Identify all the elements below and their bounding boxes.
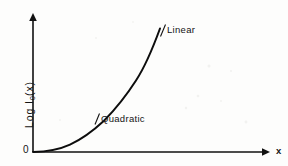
linear-annotation-label: Linear: [167, 25, 195, 35]
y-axis-label-subscript: 0: [28, 96, 37, 100]
y-axis-label-main: Log I: [23, 100, 35, 128]
origin-label: 0: [23, 145, 29, 155]
y-axis-label: Log I0(x): [24, 8, 36, 128]
figure-container: Log I0(x) x 0 Linear Quadratic: [0, 0, 288, 166]
x-axis-arrowhead-icon: [262, 148, 270, 156]
y-axis-label-suffix: (x): [23, 81, 35, 96]
quadratic-leader-line: [95, 114, 100, 125]
quadratic-annotation-label: Quadratic: [101, 114, 145, 124]
plot-canvas: [0, 0, 288, 166]
log-i0-curve: [33, 29, 160, 153]
linear-leader-line: [161, 25, 166, 37]
x-axis-label: x: [276, 146, 281, 156]
